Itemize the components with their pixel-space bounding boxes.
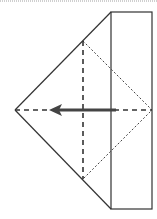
triangle-top-edge (15, 12, 111, 110)
triangle-bottom-edge (15, 110, 111, 209)
origami-diagram (0, 0, 157, 219)
